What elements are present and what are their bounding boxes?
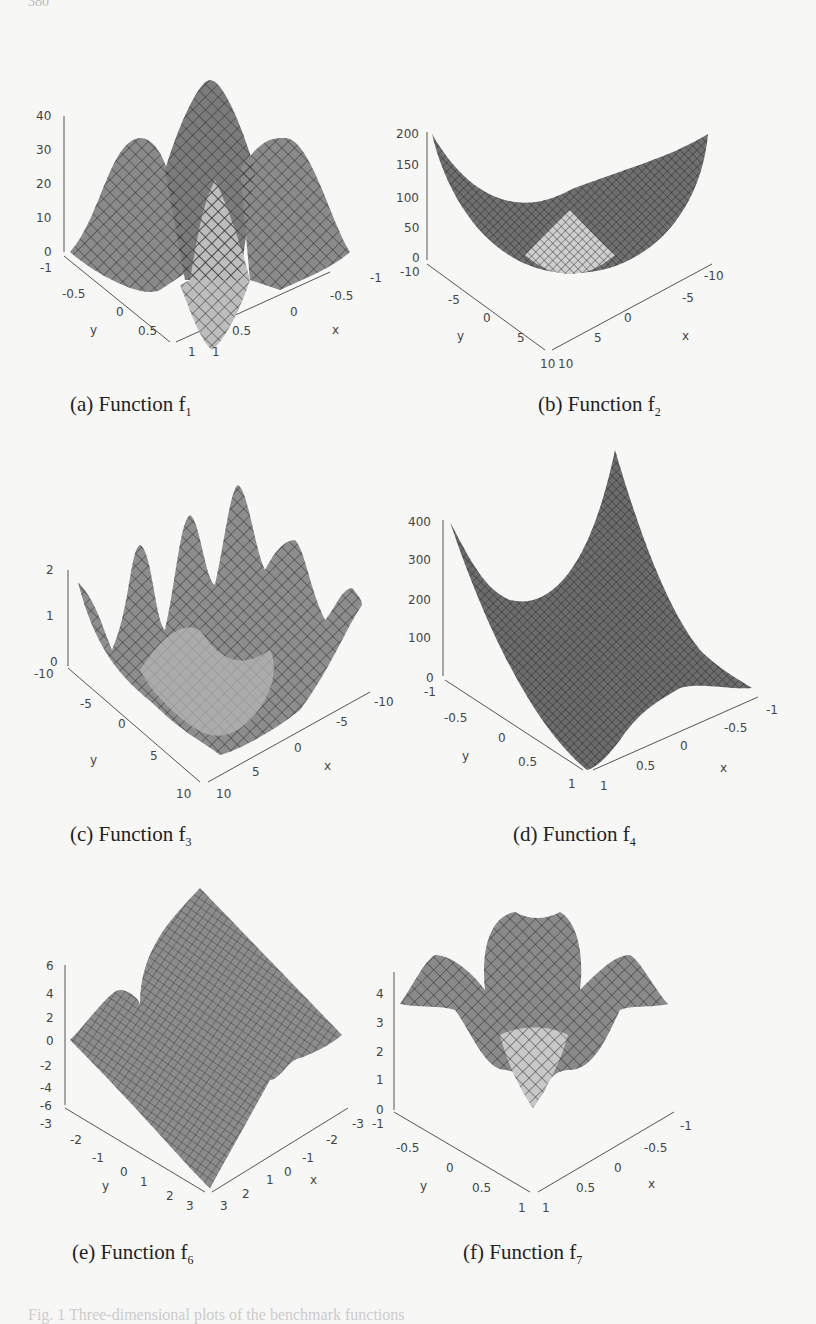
x-tick: 1 [542, 1201, 550, 1215]
z-tick: 2 [46, 1011, 54, 1025]
z-tick: 0 [412, 251, 420, 265]
y-tick: 10 [176, 787, 191, 801]
y-axis-label: y [90, 323, 97, 337]
z-tick: 4 [46, 987, 54, 1001]
y-tick: -0.5 [62, 287, 85, 301]
x-tick: 10 [216, 787, 231, 801]
x-tick: 0.5 [232, 324, 251, 338]
x-axis-label: x [648, 1177, 655, 1191]
surface-plot-f7: 4 3 2 1 0 -1 -0.5 0 0.5 1 y 1 0.5 0 -0.5… [370, 880, 720, 1220]
x-tick: -0.5 [644, 1141, 667, 1155]
caption-text: (d) Function f [513, 822, 630, 846]
x-axis-label: x [310, 1173, 317, 1187]
x-tick: 3 [220, 1199, 228, 1213]
surface-plot-f2: 200 150 100 50 0 -10 -5 0 5 10 y 10 5 0 … [400, 90, 730, 390]
z-tick: -2 [40, 1059, 52, 1073]
x-tick: -5 [336, 715, 348, 729]
x-tick: -1 [680, 1119, 692, 1133]
surface-plot-f1: 40 30 20 10 0 -1 -0.5 0 0.5 1 y 1 0.5 0 … [40, 20, 420, 390]
y-tick: 5 [517, 331, 525, 345]
y-tick: 0 [446, 1161, 454, 1175]
caption-subscript: 7 [576, 1253, 582, 1267]
y-tick: 0 [120, 1165, 128, 1179]
caption-d: (d) Function f4 [513, 822, 636, 850]
z-tick: 6 [46, 959, 54, 973]
x-tick: 0 [614, 1161, 622, 1175]
y-tick: -5 [80, 697, 92, 711]
x-tick: -5 [682, 291, 694, 305]
z-tick: 400 [408, 515, 431, 529]
x-tick: -1 [766, 703, 778, 717]
y-axis-label: y [457, 329, 464, 343]
z-tick: 0 [46, 1034, 54, 1048]
y-tick: -1 [372, 1117, 384, 1131]
y-tick: -0.5 [444, 711, 467, 725]
z-tick: 30 [36, 143, 51, 157]
y-tick: 0.5 [518, 755, 537, 769]
y-tick: 1 [568, 777, 576, 791]
plot-f1: 40 30 20 10 0 -1 -0.5 0 0.5 1 y 1 0.5 0 … [40, 20, 420, 390]
y-tick: 1 [140, 1175, 148, 1189]
x-tick: -2 [326, 1133, 338, 1147]
y-tick: 0 [118, 717, 126, 731]
plot-f2: 200 150 100 50 0 -10 -5 0 5 10 y 10 5 0 … [400, 90, 730, 390]
z-tick: -6 [40, 1099, 52, 1113]
x-tick: -10 [704, 269, 724, 283]
y-axis-label: y [462, 749, 469, 763]
surface-plot-f4: 400 300 200 100 0 -1 -0.5 0 0.5 1 y 1 0.… [400, 450, 800, 820]
y-tick: 1 [188, 345, 196, 359]
z-tick: 200 [396, 127, 419, 141]
x-tick: 0.5 [636, 759, 655, 773]
page-number: 380 [28, 0, 49, 10]
plot-f4: 400 300 200 100 0 -1 -0.5 0 0.5 1 y 1 0.… [400, 450, 800, 820]
z-tick: 3 [376, 1016, 384, 1030]
x-tick: 1 [212, 345, 220, 359]
x-axis-label: x [324, 759, 331, 773]
z-tick: 100 [396, 191, 419, 205]
z-tick: 4 [376, 987, 384, 1001]
z-tick: 50 [404, 221, 419, 235]
caption-text: (e) Function f [72, 1240, 187, 1264]
caption-subscript: 6 [187, 1253, 193, 1267]
x-tick: 0 [624, 311, 632, 325]
x-tick: -1 [302, 1151, 314, 1165]
caption-subscript: 3 [185, 835, 191, 849]
z-tick: 100 [408, 631, 431, 645]
y-tick: -3 [40, 1117, 52, 1131]
caption-a: (a) Function f1 [70, 392, 191, 420]
plot-f3: 2 1 0 -10 -5 0 5 10 y 10 5 0 -5 -10 x [40, 470, 390, 820]
surface-plot-f6: 6 4 2 0 -2 -4 -6 -3 -2 -1 0 1 2 3 y 3 2 … [40, 880, 380, 1220]
caption-c: (c) Function f3 [70, 822, 191, 850]
z-tick: 2 [376, 1045, 384, 1059]
y-tick: -2 [70, 1133, 82, 1147]
z-tick: 1 [376, 1073, 384, 1087]
y-tick: 0 [498, 731, 506, 745]
x-tick: 1 [600, 779, 608, 793]
y-tick: 0 [483, 311, 491, 325]
x-tick: 1 [266, 1173, 274, 1187]
y-tick: -0.5 [396, 1141, 419, 1155]
x-tick: -3 [352, 1117, 364, 1131]
z-tick: 0 [426, 671, 434, 685]
caption-subscript: 1 [185, 405, 191, 419]
y-tick: -10 [34, 667, 54, 681]
x-tick: 10 [558, 357, 573, 371]
y-tick: 3 [186, 1199, 194, 1213]
y-tick: -1 [424, 685, 436, 699]
y-axis-label: y [102, 1179, 109, 1193]
y-tick: 0.5 [138, 324, 157, 338]
caption-b: (b) Function f2 [538, 392, 661, 420]
caption-text: (c) Function f [70, 822, 185, 846]
x-tick: 0 [284, 1165, 292, 1179]
y-tick: -10 [400, 265, 420, 279]
caption-subscript: 2 [655, 405, 661, 419]
figure-caption: Fig. 1 Three-dimensional plots of the be… [28, 1306, 405, 1324]
x-tick: -0.5 [330, 289, 353, 303]
y-axis-label: y [90, 753, 97, 767]
x-tick: 5 [594, 331, 602, 345]
y-tick: 0 [116, 305, 124, 319]
caption-text: (a) Function f [70, 392, 185, 416]
z-tick: 2 [46, 563, 54, 577]
z-tick: 40 [36, 109, 51, 123]
z-tick: 150 [396, 158, 419, 172]
